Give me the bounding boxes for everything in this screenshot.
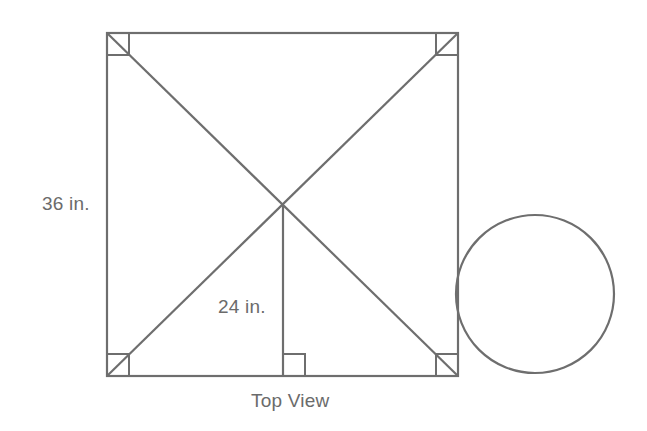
- circle-outline: [456, 215, 614, 373]
- geometry-canvas: [0, 0, 647, 431]
- side-length-label: 36 in.: [40, 193, 92, 214]
- geometry-figure: 36 in. 24 in. Top View: [0, 0, 647, 431]
- figure-caption: Top View: [249, 390, 331, 411]
- altitude-length-label: 24 in.: [216, 296, 268, 317]
- right-angle-marker-altitude-base: [283, 354, 305, 376]
